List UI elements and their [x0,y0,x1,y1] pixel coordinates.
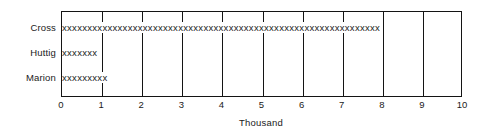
x-tick-7: 7 [339,99,344,111]
bar-row-huttig: xxxxxxx [62,47,97,58]
x-tick-4: 4 [219,99,224,111]
x-axis-tick-labels: 0 1 2 3 4 5 6 7 8 9 10 [0,99,495,113]
category-label-cross: Cross [30,23,56,33]
bar-row-cross: xxxxxxxxxxxxxxxxxxxxxxxxxxxxxxxxxxxxxxxx… [62,22,380,33]
x-tick-3: 3 [179,99,184,111]
category-axis-labels: Cross Huttig Marion [0,11,56,97]
x-axis-title-text: Thousand [239,117,283,128]
x-tick-10: 10 [457,99,468,111]
data-rows: xxxxxxxxxxxxxxxxxxxxxxxxxxxxxxxxxxxxxxxx… [61,11,462,97]
x-tick-2: 2 [139,99,144,111]
x-tick-5: 5 [259,99,264,111]
x-tick-9: 9 [419,99,424,111]
x-bar-chart-figure: Cross Huttig Marion xxxxxxxxxxxxxxxxxxxx… [0,0,495,136]
category-label-huttig: Huttig [30,48,56,58]
category-label-marion: Marion [26,73,56,83]
x-tick-0: 0 [58,99,63,111]
x-tick-6: 6 [299,99,304,111]
x-tick-8: 8 [379,99,384,111]
bar-row-marion: xxxxxxxxx [62,72,107,83]
x-tick-1: 1 [98,99,103,111]
